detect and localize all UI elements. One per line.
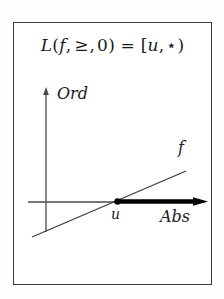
star-icon: ⋆ [166,35,177,55]
figure-root: L(f, ≥, 0) = [u, ⋆) Ord Abs f u [0,0,224,299]
formula-interval-lower: u [148,35,159,55]
formula-relation-geq: ≥ [73,35,89,55]
title-formula: L(f, ≥, 0) = [u, ⋆) [14,37,211,54]
ordinate-axis-label: Ord [57,86,88,102]
formula-interval-close: ) [177,35,184,55]
formula-close-paren: ) [108,35,115,55]
formula-arg-level: 0 [97,35,108,55]
abscissa-axis-label: Abs [160,209,190,225]
formula-comma-3: , [159,35,165,55]
formula-comma-1: , [66,35,72,55]
formula-comma-2: , [90,35,96,55]
threshold-label-u: u [111,207,120,221]
formula-interval-open: [ [141,35,148,55]
function-label-f: f [178,140,184,156]
formula-equals: = [121,35,135,55]
formula-lhs-function: L [41,35,53,55]
